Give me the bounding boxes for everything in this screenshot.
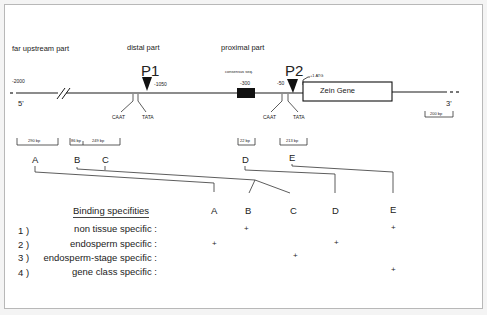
row-3-label: endosperm-stage specific : <box>43 253 157 263</box>
p1-tata-label: TATA <box>142 115 154 120</box>
col-header-e: E <box>390 205 396 215</box>
gene-label: Zein Gene <box>320 87 355 95</box>
col-header-c: C <box>290 206 297 216</box>
row-2-num: 2 ) <box>18 240 29 250</box>
scale-bars <box>17 111 453 145</box>
fragment-a: A <box>32 155 38 165</box>
p1-arrow-icon <box>142 77 152 91</box>
consensus-label: consensus seq. <box>225 70 253 74</box>
col-header-b: B <box>245 206 251 216</box>
mark-r4-e: + <box>391 266 396 274</box>
fragment-b: B <box>74 155 80 165</box>
mark-r2-d: + <box>334 239 339 247</box>
scale-label-d: 22 bp <box>240 139 250 143</box>
region-proximal: proximal part <box>221 44 264 52</box>
scale-label-a: 290 bp <box>28 139 40 143</box>
start-position: -2000 <box>12 79 25 84</box>
connector-lines <box>35 164 393 193</box>
p2-position: -50 <box>277 81 284 86</box>
col-header-a: A <box>211 206 217 216</box>
row-1-label: non tissue specific : <box>74 224 157 234</box>
row-3-num: 3 ) <box>18 253 29 263</box>
p1-position: -1050 <box>154 82 167 87</box>
mark-r1-b: + <box>244 225 249 233</box>
five-prime-label: 5' <box>18 100 24 108</box>
row-1-num: 1 ) <box>18 226 29 236</box>
atg-label: +1 ATG <box>310 74 323 78</box>
mark-r1-e: + <box>391 224 396 232</box>
p1-label: P1 <box>141 63 159 78</box>
mark-r2-a: + <box>212 240 217 248</box>
fragment-d: D <box>242 155 249 165</box>
p2-label: P2 <box>285 63 303 78</box>
p1-box-markers <box>121 94 146 112</box>
region-far-upstream: far upstream part <box>12 45 69 53</box>
p1-caat-label: CAAT <box>112 115 125 120</box>
p2-tata-label: TATA <box>293 115 305 120</box>
consensus-box <box>237 88 255 98</box>
row-4-num: 4 ) <box>18 268 29 278</box>
fragment-e: E <box>289 153 295 163</box>
mark-r3-c: + <box>293 252 298 260</box>
three-prime-label: 3' <box>446 100 452 108</box>
fragment-c: C <box>102 155 109 165</box>
p2-arrow-icon <box>287 79 298 93</box>
scale-label-c: 249 bp <box>92 139 104 143</box>
scale-label-e: 213 bp <box>286 139 298 143</box>
row-4-label: gene class specific : <box>72 267 157 277</box>
col-header-d: D <box>332 206 339 216</box>
row-2-label: endosperm specific : <box>70 239 157 249</box>
table-title: Binding specifities <box>73 206 149 218</box>
consensus-position: -300 <box>240 81 250 86</box>
p2-box-markers <box>271 94 298 112</box>
scale-label-b: 86 bp <box>71 139 81 143</box>
p2-caat-label: CAAT <box>263 115 276 120</box>
scale-label-ref: 200 bp <box>430 112 442 116</box>
region-distal: distal part <box>127 44 160 52</box>
